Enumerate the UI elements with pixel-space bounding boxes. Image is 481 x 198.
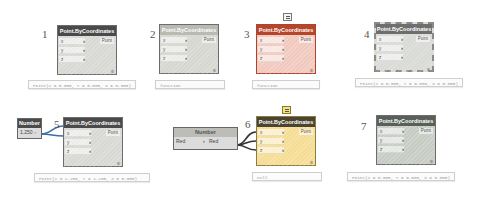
node-label-5: 5 (54, 118, 60, 130)
lacing-icon: Ⅲ (427, 68, 430, 72)
node-title: Point.ByCoordinates (377, 116, 435, 126)
point-node-inactive[interactable]: Point.ByCoordinates x› y› z› Point Ⅲ (159, 24, 219, 74)
chevron-right-icon: › (282, 138, 284, 145)
wire-selected (41, 134, 64, 136)
output-port-point[interactable]: Point (299, 37, 313, 43)
comment-icon[interactable] (282, 106, 291, 114)
input-port-z[interactable]: z› (161, 55, 187, 62)
wire-selected (41, 126, 64, 134)
input-port-x[interactable]: x› (59, 38, 85, 45)
number-value[interactable]: 1.250 (20, 129, 33, 135)
chevron-right-icon: › (282, 46, 284, 53)
number-node[interactable]: Number 1.250 > (17, 118, 42, 139)
point-node-warning[interactable]: Point.ByCoordinates x› y› z› Point Ⅲ (256, 116, 316, 166)
chevron-right-icon: › (83, 38, 85, 45)
lacing-icon: Ⅲ (430, 160, 433, 164)
lacing-icon: Ⅲ (213, 69, 216, 73)
point-node-default[interactable]: Point.ByCoordinates x› y› z› Point Ⅲ (57, 25, 117, 75)
wire-default (237, 145, 256, 150)
input-port-z[interactable]: z› (258, 55, 284, 62)
node-label-6: 6 (245, 118, 251, 130)
lacing-icon: Ⅲ (310, 161, 313, 165)
input-port-y[interactable]: y› (258, 46, 284, 53)
wire-default (237, 132, 256, 145)
input-port-x[interactable]: x› (378, 128, 404, 135)
point-node-error[interactable]: Point.ByCoordinates x› y› z› Point Ⅲ (256, 24, 316, 74)
chevron-right-icon: › (185, 46, 187, 53)
input-port-y[interactable]: y› (161, 46, 187, 53)
input-port-y[interactable]: y› (378, 137, 404, 144)
node-title: Point.ByCoordinates (257, 117, 315, 127)
node-title: Point.ByCoordinates (376, 24, 432, 34)
output-port-point[interactable]: Point (419, 128, 433, 134)
chevron-right-icon: › (282, 129, 284, 136)
output-port[interactable]: > (34, 130, 36, 135)
lacing-icon: Ⅲ (117, 162, 120, 166)
chevron-right-icon: › (89, 130, 91, 137)
chevron-right-icon: › (185, 55, 187, 62)
node-label-7: 7 (361, 120, 367, 132)
chevron-right-icon: › (402, 146, 404, 153)
input-port-y[interactable]: y› (59, 47, 85, 54)
output-port-point[interactable]: Point (299, 129, 313, 135)
node-label-1: 1 (42, 28, 48, 40)
preview-bubble: function (155, 80, 225, 89)
node-title: Point.ByCoordinates (64, 118, 122, 128)
wire-default (237, 141, 256, 145)
chevron-right-icon: › (282, 55, 284, 62)
chevron-right-icon: › (83, 56, 85, 63)
node-title: Point.ByCoordinates (160, 25, 218, 35)
lacing-icon: Ⅲ (310, 69, 313, 73)
chevron-right-icon: › (401, 45, 403, 52)
node-title: Number (174, 128, 237, 137)
input-port-z[interactable]: z› (378, 146, 404, 153)
preview-bubble: Point(X = 1.250, Y = 1.250, Z = 0.000) (34, 173, 150, 182)
output-port-label[interactable]: Red (209, 137, 218, 145)
input-port-z[interactable]: z› (258, 147, 284, 154)
output-port-point[interactable]: Point (416, 36, 430, 42)
chevron-right-icon: › (83, 47, 85, 54)
chevron-right-icon: › (185, 37, 187, 44)
chevron-right-icon: › (89, 148, 91, 155)
node-title: Point.ByCoordinates (257, 25, 315, 35)
node-title: Number (18, 119, 41, 128)
node-title: Point.ByCoordinates (58, 26, 116, 36)
input-port-label: Red (176, 138, 185, 144)
lacing-icon: Ⅲ (111, 70, 114, 74)
chevron-right-icon: › (203, 137, 205, 145)
node-label-4: 4 (364, 28, 370, 40)
preview-bubble: Point(X = 0.000, Y = 0.000, Z = 0.000) (355, 78, 463, 87)
input-port-x[interactable]: x› (161, 37, 187, 44)
chevron-right-icon: › (282, 147, 284, 154)
output-port-point[interactable]: Point (202, 37, 216, 43)
preview-bubble: Point(X = 0.000, Y = 0.000, Z = 0.000) (28, 80, 136, 89)
chevron-right-icon: › (89, 139, 91, 146)
point-node-frozen[interactable]: Point.ByCoordinates x› y› z› Point Ⅲ (374, 22, 434, 72)
preview-bubble: Point(X = 0.000, Y = 0.000, Z = 0.000) (347, 172, 455, 181)
input-port-y[interactable]: y› (65, 139, 91, 146)
input-port-z[interactable]: z› (377, 54, 403, 61)
input-port-x[interactable]: x› (65, 130, 91, 137)
input-port-x[interactable]: x› (377, 36, 403, 43)
input-port-x[interactable]: x› (258, 37, 284, 44)
input-port-y[interactable]: y› (258, 138, 284, 145)
chevron-right-icon: › (402, 128, 404, 135)
input-port-y[interactable]: y› (377, 45, 403, 52)
output-port-point[interactable]: Point (100, 38, 114, 44)
input-port-z[interactable]: z› (65, 148, 91, 155)
comment-icon[interactable] (283, 13, 292, 21)
point-node-preview-off[interactable]: Point.ByCoordinates x› y› z› Point Ⅲ (376, 115, 436, 165)
preview-bubble: null (252, 172, 322, 181)
chevron-right-icon: › (401, 36, 403, 43)
node-label-2: 2 (150, 28, 156, 40)
number-node-inactive[interactable]: Number Red › Red (173, 127, 238, 150)
chevron-right-icon: › (401, 54, 403, 61)
chevron-right-icon: › (282, 37, 284, 44)
input-port-x[interactable]: x› (258, 129, 284, 136)
output-port-point[interactable]: Point (106, 130, 120, 136)
chevron-right-icon: › (402, 137, 404, 144)
node-label-3: 3 (244, 28, 250, 40)
preview-bubble: function (252, 80, 320, 89)
input-port-z[interactable]: z› (59, 56, 85, 63)
point-node-selected[interactable]: Point.ByCoordinates x› y› z› Point Ⅲ (63, 117, 123, 167)
